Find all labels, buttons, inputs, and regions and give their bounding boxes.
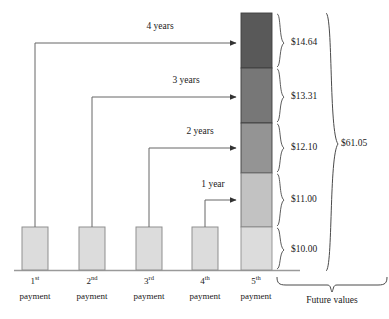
axis-label-payment-3: 3rd payment <box>134 277 165 301</box>
ordinal-suffix-4: th <box>205 274 210 281</box>
ordinal-suffix-3: rd <box>149 274 154 281</box>
payment-bar-4 <box>192 227 218 270</box>
arrow-label-4-years: 4 years <box>146 22 173 32</box>
payment-bar-1 <box>22 227 48 270</box>
segment-braces <box>277 14 284 269</box>
payment-bar-3 <box>136 227 162 270</box>
future-values-label: Future values <box>306 296 357 306</box>
future-values-brace <box>277 277 387 292</box>
axis-label-payment-4: 4th payment <box>190 277 221 301</box>
ordinal-suffix-1: st <box>35 274 39 281</box>
stack-value-11-00: $11.00 <box>291 195 317 205</box>
payment-word-2: payment <box>77 292 108 301</box>
axis-label-payment-5: 5th payment <box>241 277 272 301</box>
arrow-label-3-years: 3 years <box>172 76 199 86</box>
payment-word-4: payment <box>190 292 221 301</box>
payment-word-3: payment <box>134 292 165 301</box>
total-brace <box>326 13 338 271</box>
ordinal-suffix-2: nd <box>91 274 98 281</box>
annuity-future-value-diagram: 4 years 3 years 2 years 1 year $14.64 $1… <box>0 0 389 319</box>
stack-segment-12-10 <box>241 123 272 173</box>
stack-value-12-10: $12.10 <box>291 143 317 153</box>
stack-segment-13-31 <box>241 68 272 123</box>
arrow-label-2-years: 2 years <box>186 127 213 137</box>
future-value-stack <box>241 13 272 270</box>
stack-segment-14-64 <box>241 13 272 68</box>
payment-word-1: payment <box>20 292 51 301</box>
stack-value-10-00: $10.00 <box>291 245 317 255</box>
arrow-3-years <box>92 97 236 227</box>
total-value-label: $61.05 <box>341 139 367 149</box>
stack-value-14-64: $14.64 <box>291 38 317 48</box>
stack-segment-10-00 <box>241 227 272 270</box>
ordinal-suffix-5: th <box>256 274 261 281</box>
arrow-label-1-year: 1 year <box>201 180 224 190</box>
diagram-vector-layer <box>0 0 389 319</box>
stack-value-13-31: $13.31 <box>291 92 317 102</box>
stack-segment-11-00 <box>241 173 272 227</box>
payment-word-5: payment <box>241 292 272 301</box>
payment-bar-2 <box>79 227 105 270</box>
axis-label-payment-2: 2nd payment <box>77 277 108 301</box>
arrow-1-year <box>205 200 236 227</box>
axis-label-payment-1: 1st payment <box>20 277 51 301</box>
